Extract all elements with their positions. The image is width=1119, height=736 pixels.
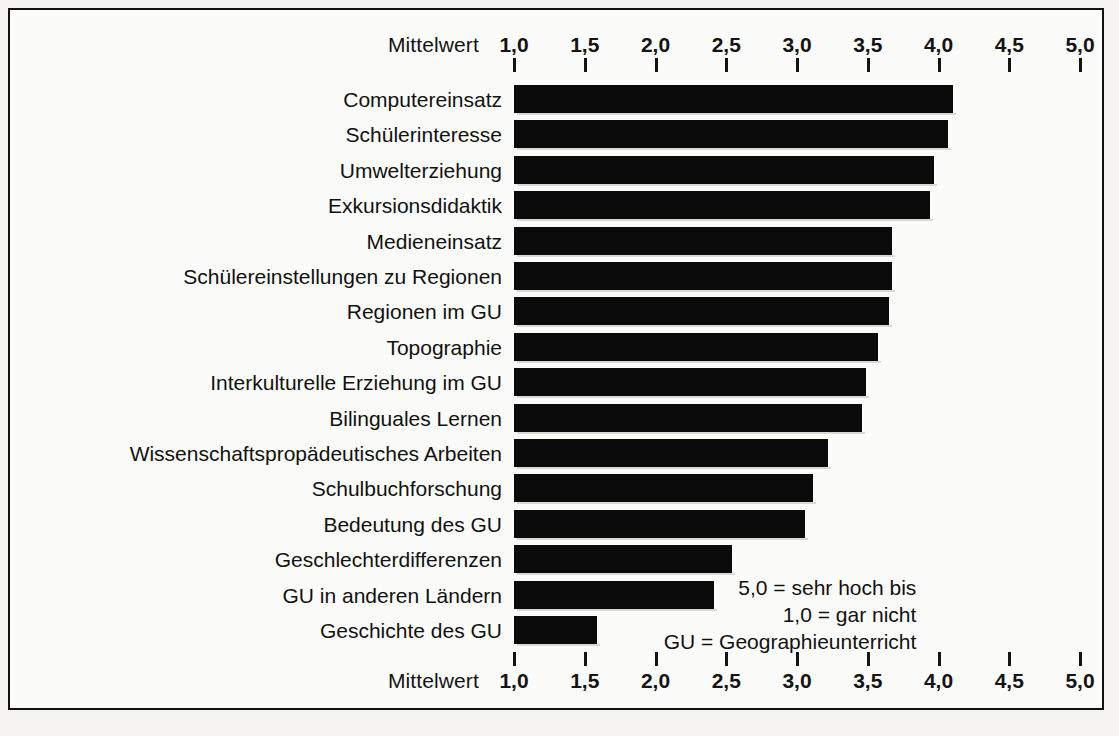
x-tick-mark-top	[655, 58, 658, 72]
legend-annotations: 5,0 = sehr hoch bis1,0 = gar nichtGU = G…	[664, 575, 917, 656]
category-label: Medieneinsatz	[0, 230, 502, 251]
x-tick-label-bottom: 3,5	[853, 669, 882, 693]
x-tick-label-top: 1,5	[570, 33, 599, 57]
x-tick-label-top: 3,5	[853, 33, 882, 57]
x-tick-mark-bottom	[1079, 652, 1082, 666]
plot-area: MittelwertMittelwert1,01,01,51,52,02,02,…	[0, 0, 1119, 736]
bar	[514, 510, 805, 538]
bar	[514, 120, 948, 148]
bar	[514, 474, 813, 502]
axis-caption-bottom: Mittelwert	[388, 669, 479, 693]
category-label: Interkulturelle Erziehung im GU	[0, 372, 502, 393]
x-tick-label-bottom: 3,0	[782, 669, 811, 693]
category-label: Computereinsatz	[0, 89, 502, 110]
bar-shadow	[517, 148, 951, 150]
x-tick-label-top: 3,0	[782, 33, 811, 57]
x-tick-label-bottom: 2,0	[641, 669, 670, 693]
x-tick-label-top: 2,0	[641, 33, 670, 57]
bar	[514, 262, 892, 290]
bar	[514, 439, 828, 467]
x-tick-mark-top	[1008, 58, 1011, 72]
x-tick-label-bottom: 1,5	[570, 669, 599, 693]
legend-line-1: 5,0 = sehr hoch bis	[664, 575, 917, 602]
x-tick-mark-bottom	[513, 652, 516, 666]
category-label: GU in anderen Ländern	[0, 584, 502, 605]
bar-shadow	[517, 184, 937, 186]
x-tick-label-top: 2,5	[712, 33, 741, 57]
bar-shadow	[517, 325, 892, 327]
x-tick-mark-top	[513, 58, 516, 72]
x-tick-mark-top	[725, 58, 728, 72]
bar-shadow	[517, 113, 956, 115]
x-tick-label-top: 1,0	[499, 33, 528, 57]
category-label: Regionen im GU	[0, 301, 502, 322]
x-tick-mark-bottom	[655, 652, 658, 666]
category-label: Schülerinteresse	[0, 124, 502, 145]
category-label: Bilinguales Lernen	[0, 407, 502, 428]
category-label: Schülereinstellungen zu Regionen	[0, 266, 502, 287]
x-tick-label-bottom: 4,0	[924, 669, 953, 693]
legend-line-3: GU = Geographieunterricht	[664, 629, 917, 656]
bar-shadow	[517, 290, 895, 292]
bar-shadow	[517, 467, 831, 469]
x-tick-mark-top	[938, 58, 941, 72]
bar	[514, 297, 889, 325]
bar-shadow	[517, 219, 933, 221]
bar	[514, 191, 930, 219]
bar	[514, 333, 878, 361]
bar	[514, 545, 732, 573]
category-label: Exkursionsdidaktik	[0, 195, 502, 216]
x-tick-label-top: 5,0	[1065, 33, 1094, 57]
x-tick-label-bottom: 5,0	[1065, 669, 1094, 693]
x-tick-mark-top	[796, 58, 799, 72]
bar-shadow	[517, 432, 865, 434]
x-tick-label-bottom: 2,5	[712, 669, 741, 693]
category-label: Umwelterziehung	[0, 159, 502, 180]
category-label: Wissenschaftspropädeutisches Arbeiten	[0, 443, 502, 464]
bar-shadow	[517, 361, 881, 363]
legend-line-2: 1,0 = gar nicht	[664, 602, 917, 629]
x-tick-mark-top	[584, 58, 587, 72]
bar-shadow	[517, 255, 895, 257]
category-label: Schulbuchforschung	[0, 478, 502, 499]
x-tick-label-top: 4,5	[995, 33, 1024, 57]
category-label: Bedeutung des GU	[0, 513, 502, 534]
bar	[514, 156, 934, 184]
x-tick-mark-top	[867, 58, 870, 72]
bar	[514, 404, 862, 432]
bar	[514, 227, 892, 255]
bar-shadow	[517, 502, 816, 504]
x-tick-mark-top	[1079, 58, 1082, 72]
category-label: Geschichte des GU	[0, 620, 502, 641]
x-tick-mark-bottom	[938, 652, 941, 666]
bar	[514, 368, 866, 396]
bar-shadow	[517, 396, 869, 398]
bar-shadow	[517, 644, 600, 646]
x-tick-mark-bottom	[1008, 652, 1011, 666]
category-label: Geschlechterdifferenzen	[0, 549, 502, 570]
x-tick-mark-bottom	[584, 652, 587, 666]
figure-container: MittelwertMittelwert1,01,01,51,52,02,02,…	[0, 0, 1119, 736]
x-tick-label-top: 4,0	[924, 33, 953, 57]
axis-caption-top: Mittelwert	[388, 33, 479, 57]
x-tick-label-bottom: 4,5	[995, 669, 1024, 693]
bar	[514, 85, 953, 113]
bar-shadow	[517, 538, 808, 540]
bar	[514, 616, 597, 644]
x-tick-label-bottom: 1,0	[499, 669, 528, 693]
category-label: Topographie	[0, 336, 502, 357]
